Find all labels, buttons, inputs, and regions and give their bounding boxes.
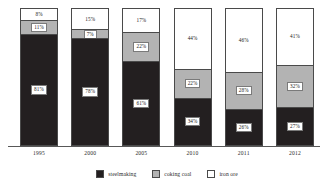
bar-stack: 41% 32% 27% — [276, 8, 314, 146]
segment-label-iron-ore: 41% — [287, 32, 303, 41]
plot-area: 8% 11% 81% 15% 7% — [14, 8, 320, 146]
segment-steelmaking: 61% — [123, 62, 159, 145]
segment-label-coking-coal: 11% — [31, 23, 47, 32]
x-axis-tick-labels: 1995 2000 2005 2010 2011 2012 — [14, 150, 320, 156]
bar-stack: 44% 22% 34% — [174, 8, 212, 146]
segment-label-coking-coal: 7% — [84, 30, 97, 39]
legend-swatch-icon-steelmaking — [96, 170, 104, 178]
x-tick-2011: 2011 — [225, 150, 263, 156]
segment-label-iron-ore: 46% — [236, 36, 252, 45]
x-axis-line — [8, 146, 320, 147]
stacked-bar-chart: 8% 11% 81% 15% 7% — [0, 0, 334, 190]
segment-label-steelmaking: 61% — [133, 99, 149, 108]
segment-label-coking-coal: 28% — [236, 86, 252, 95]
segment-iron-ore: 46% — [226, 9, 262, 72]
bar-column-2012: 41% 32% 27% — [276, 8, 314, 146]
segment-steelmaking: 26% — [226, 110, 262, 145]
segment-steelmaking: 27% — [277, 108, 313, 145]
legend-label-iron-ore: iron ore — [219, 171, 237, 177]
segment-coking-coal: 11% — [21, 20, 57, 35]
segment-iron-ore: 8% — [21, 9, 57, 20]
segment-steelmaking: 34% — [175, 99, 211, 145]
bar-stack: 46% 28% 26% — [225, 8, 263, 146]
segment-label-steelmaking: 27% — [287, 122, 303, 131]
segment-iron-ore: 41% — [277, 9, 313, 65]
legend-label-coking-coal: coking coal — [164, 171, 191, 177]
legend-swatch-icon-iron-ore — [207, 170, 215, 178]
legend-item-steelmaking: steelmaking — [96, 170, 136, 178]
legend: steelmaking coking coal iron ore — [0, 170, 334, 178]
legend-item-iron-ore: iron ore — [207, 170, 237, 178]
segment-label-coking-coal: 32% — [287, 82, 303, 91]
segment-label-steelmaking: 81% — [31, 85, 47, 94]
legend-item-coking-coal: coking coal — [152, 170, 191, 178]
x-tick-2000: 2000 — [71, 150, 109, 156]
legend-label-steelmaking: steelmaking — [108, 171, 136, 177]
x-tick-1995: 1995 — [20, 150, 58, 156]
segment-label-iron-ore: 15% — [82, 15, 98, 24]
bar-column-2011: 46% 28% 26% — [225, 8, 263, 146]
segment-iron-ore: 17% — [123, 9, 159, 32]
bar-column-2000: 15% 7% 78% — [71, 8, 109, 146]
segment-iron-ore: 44% — [175, 9, 211, 69]
x-tick-2005: 2005 — [122, 150, 160, 156]
segment-coking-coal: 28% — [226, 72, 262, 110]
segment-coking-coal: 22% — [175, 69, 211, 99]
bar-column-2005: 17% 22% 61% — [122, 8, 160, 146]
segment-steelmaking: 78% — [72, 39, 108, 145]
bar-stack: 8% 11% 81% — [20, 8, 58, 146]
segment-label-steelmaking: 26% — [236, 123, 252, 132]
bar-stack: 17% 22% 61% — [122, 8, 160, 146]
segment-coking-coal: 22% — [123, 32, 159, 62]
legend-swatch-icon-coking-coal — [152, 170, 160, 178]
segment-label-iron-ore: 44% — [185, 34, 201, 43]
segment-label-iron-ore: 17% — [133, 16, 149, 25]
bar-column-1995: 8% 11% 81% — [20, 8, 58, 146]
segment-iron-ore: 15% — [72, 9, 108, 29]
x-tick-2012: 2012 — [276, 150, 314, 156]
bars-row: 8% 11% 81% 15% 7% — [14, 8, 320, 146]
segment-label-steelmaking: 34% — [185, 117, 201, 126]
segment-label-steelmaking: 78% — [82, 87, 98, 96]
segment-label-coking-coal: 22% — [185, 79, 201, 88]
bar-column-2010: 44% 22% 34% — [174, 8, 212, 146]
segment-coking-coal: 7% — [72, 29, 108, 39]
segment-steelmaking: 81% — [21, 35, 57, 145]
bar-stack: 15% 7% 78% — [71, 8, 109, 146]
segment-label-coking-coal: 22% — [133, 42, 149, 51]
segment-coking-coal: 32% — [277, 65, 313, 109]
x-tick-2010: 2010 — [174, 150, 212, 156]
segment-label-iron-ore: 8% — [32, 10, 45, 19]
